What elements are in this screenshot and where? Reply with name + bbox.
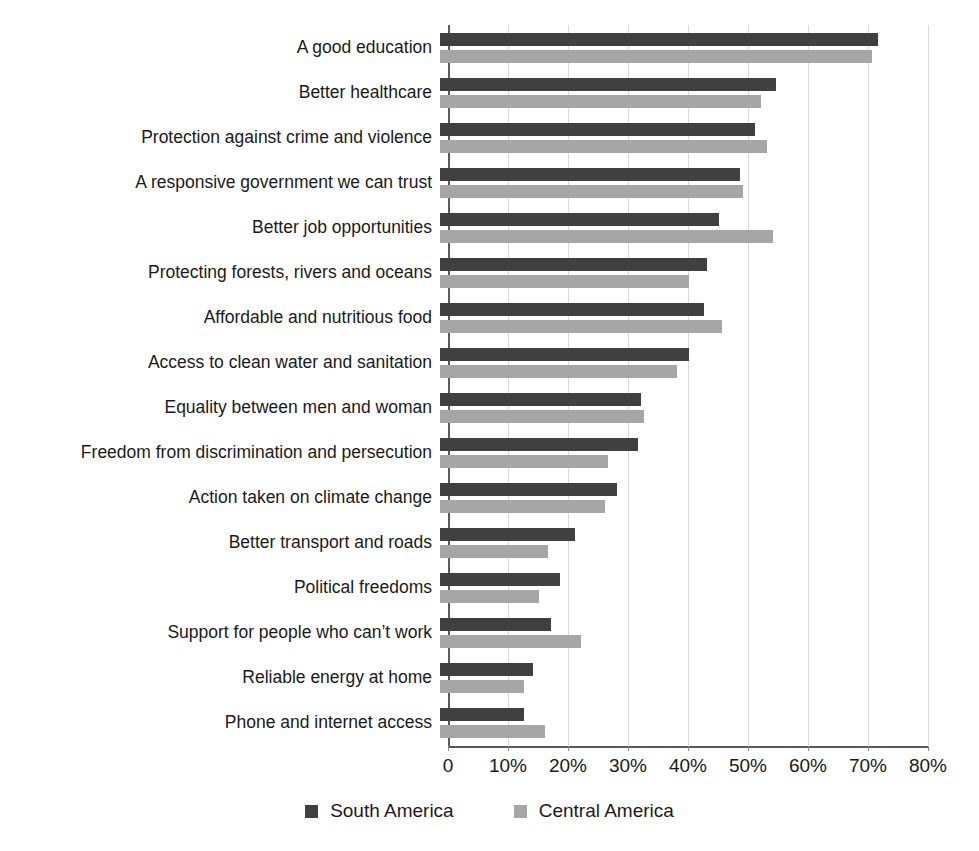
bars-cell <box>440 610 979 655</box>
bar-central-america <box>440 140 767 153</box>
bar-central-america <box>440 365 677 378</box>
bar-central-america <box>440 725 545 738</box>
bar-south-america <box>440 78 776 91</box>
bars-cell <box>440 700 979 745</box>
bar-central-america <box>440 410 644 423</box>
bars-cell <box>440 340 979 385</box>
chart-row: A good education <box>0 25 979 70</box>
chart-row: Better healthcare <box>0 70 979 115</box>
bar-central-america <box>440 230 773 243</box>
legend-label: Central America <box>539 800 674 822</box>
chart-row: Phone and internet access <box>0 700 979 745</box>
bars-cell <box>440 115 979 160</box>
x-tick-label: 60% <box>789 755 827 777</box>
bar-south-america <box>440 528 575 541</box>
x-tick-label: 20% <box>549 755 587 777</box>
bar-central-america <box>440 590 539 603</box>
bar-south-america <box>440 33 878 46</box>
category-label: Phone and internet access <box>0 713 440 732</box>
category-label: A good education <box>0 38 440 57</box>
bars-cell <box>440 475 979 520</box>
chart-row: Political freedoms <box>0 565 979 610</box>
chart-row: Better job opportunities <box>0 205 979 250</box>
x-axis-tick <box>808 746 809 751</box>
category-label: Better transport and roads <box>0 533 440 552</box>
bars-cell <box>440 565 979 610</box>
category-label: Affordable and nutritious food <box>0 308 440 327</box>
bar-central-america <box>440 635 581 648</box>
category-label: Reliable energy at home <box>0 668 440 687</box>
legend-item[interactable]: South America <box>305 800 454 822</box>
bar-south-america <box>440 393 641 406</box>
category-label: Protection against crime and violence <box>0 128 440 147</box>
bar-central-america <box>440 500 605 513</box>
legend-swatch-icon <box>305 805 318 818</box>
x-tick-label: 10% <box>489 755 527 777</box>
category-label: Better job opportunities <box>0 218 440 237</box>
bars-cell <box>440 655 979 700</box>
chart-row: Better transport and roads <box>0 520 979 565</box>
x-axis-tick <box>568 746 569 751</box>
category-label: Action taken on climate change <box>0 488 440 507</box>
bar-central-america <box>440 95 761 108</box>
bar-central-america <box>440 320 722 333</box>
chart-row: Protection against crime and violence <box>0 115 979 160</box>
x-tick-label: 50% <box>729 755 767 777</box>
bars-cell <box>440 385 979 430</box>
bar-south-america <box>440 573 560 586</box>
category-label: Freedom from discrimination and persecut… <box>0 443 440 462</box>
x-tick-label: 30% <box>609 755 647 777</box>
x-axis-tick <box>868 746 869 751</box>
bar-central-america <box>440 50 872 63</box>
bar-central-america <box>440 275 689 288</box>
chart-row: Support for people who can’t work <box>0 610 979 655</box>
chart-row: Protecting forests, rivers and oceans <box>0 250 979 295</box>
legend-swatch-icon <box>514 805 527 818</box>
chart-row: Affordable and nutritious food <box>0 295 979 340</box>
x-tick-label: 0 <box>443 755 454 777</box>
bar-south-america <box>440 438 638 451</box>
bars-cell <box>440 70 979 115</box>
legend-label: South America <box>330 800 454 822</box>
category-label: Equality between men and woman <box>0 398 440 417</box>
bar-south-america <box>440 258 707 271</box>
chart-row: Equality between men and woman <box>0 385 979 430</box>
bars-cell <box>440 160 979 205</box>
bar-central-america <box>440 680 524 693</box>
chart-row: Freedom from discrimination and persecut… <box>0 430 979 475</box>
x-tick-label: 70% <box>849 755 887 777</box>
bars-cell <box>440 25 979 70</box>
chart-legend: South AmericaCentral America <box>0 800 979 822</box>
chart-rows: A good educationBetter healthcareProtect… <box>0 25 979 745</box>
chart-row: Reliable energy at home <box>0 655 979 700</box>
x-axis-tick <box>928 746 929 751</box>
category-label: Political freedoms <box>0 578 440 597</box>
horizontal-bar-chart: A good educationBetter healthcareProtect… <box>0 0 979 851</box>
legend-item[interactable]: Central America <box>514 800 674 822</box>
x-tick-label: 40% <box>669 755 707 777</box>
chart-page: A good educationBetter healthcareProtect… <box>0 0 979 851</box>
bar-central-america <box>440 185 743 198</box>
x-axis-tick <box>628 746 629 751</box>
category-label: Protecting forests, rivers and oceans <box>0 263 440 282</box>
category-label: Better healthcare <box>0 83 440 102</box>
category-label: Access to clean water and sanitation <box>0 353 440 372</box>
x-axis-tick <box>508 746 509 751</box>
bars-cell <box>440 430 979 475</box>
bar-central-america <box>440 545 548 558</box>
chart-row: A responsive government we can trust <box>0 160 979 205</box>
bar-south-america <box>440 348 689 361</box>
bars-cell <box>440 250 979 295</box>
bar-south-america <box>440 708 524 721</box>
x-axis-tick <box>448 746 449 751</box>
bar-south-america <box>440 303 704 316</box>
chart-row: Access to clean water and sanitation <box>0 340 979 385</box>
x-axis-tick <box>688 746 689 751</box>
chart-row: Action taken on climate change <box>0 475 979 520</box>
bar-south-america <box>440 663 533 676</box>
bars-cell <box>440 295 979 340</box>
bar-south-america <box>440 483 617 496</box>
category-label: A responsive government we can trust <box>0 173 440 192</box>
bar-south-america <box>440 618 551 631</box>
bars-cell <box>440 520 979 565</box>
